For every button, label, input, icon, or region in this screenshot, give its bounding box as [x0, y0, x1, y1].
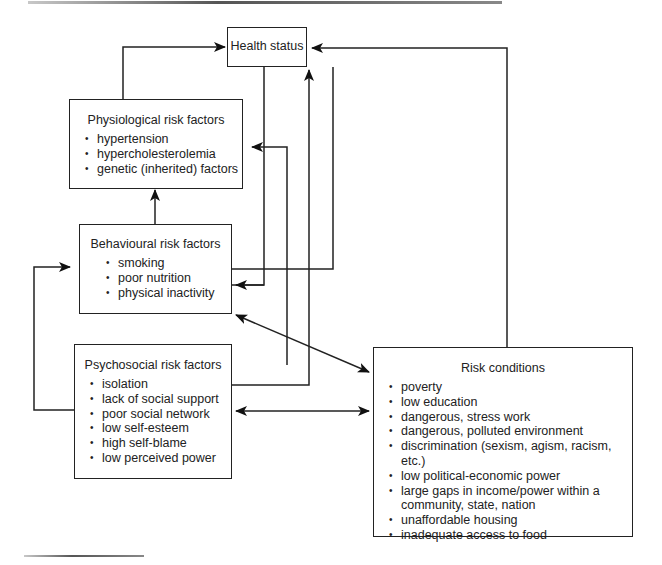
list-item: physical inactivity	[106, 286, 231, 301]
list-item: low education	[389, 395, 632, 410]
node-title: Physiological risk factors	[70, 113, 242, 127]
node-psychosocial-risk-factors: Psychosocial risk factors isolation lack…	[74, 344, 232, 479]
list-item: large gaps in income/power within a comm…	[389, 484, 601, 514]
node-title: Psychosocial risk factors	[75, 358, 231, 372]
list-item: poor nutrition	[106, 271, 231, 286]
edge-behavioural-to-health	[232, 67, 333, 269]
node-health-status: Health status	[227, 27, 307, 67]
list-item: high self-blame	[90, 436, 231, 451]
list-item: poverty	[389, 380, 632, 395]
list-item: genetic (inherited) factors	[85, 162, 242, 177]
list-item: dangerous, polluted environment	[389, 424, 632, 439]
list-item: poor social network	[90, 407, 231, 422]
node-behavioural-risk-factors: Behavioural risk factors smoking poor nu…	[79, 224, 232, 314]
list-item: low self-esteem	[90, 421, 231, 436]
edge-psychosocial-to-health	[232, 70, 309, 385]
list-item: inadequate access to food	[389, 528, 632, 543]
list-item: hypercholesterolemia	[85, 147, 242, 162]
edge-behavioural-riskconditions	[236, 315, 369, 372]
list-item: hypertension	[85, 132, 242, 147]
list-item: discrimination (sexism, agism, racism, e…	[389, 439, 632, 469]
list-item: low perceived power	[90, 451, 231, 466]
node-title: Behavioural risk factors	[80, 237, 231, 251]
list-item: isolation	[90, 377, 231, 392]
list-item: smoking	[106, 256, 231, 271]
list-item: low political-economic power	[389, 469, 632, 484]
edge-physiological-to-health	[123, 47, 225, 100]
edge-psychosocial-to-physiological	[252, 147, 287, 365]
edge-psychosocial-to-behavioural	[34, 267, 74, 410]
list-item: unaffordable housing	[389, 513, 632, 528]
node-physiological-risk-factors: Physiological risk factors hypertension …	[69, 99, 243, 189]
node-risk-conditions: Risk conditions poverty low education da…	[373, 347, 633, 537]
node-title: Health status	[228, 39, 306, 53]
node-title: Risk conditions	[374, 361, 632, 375]
list-item: dangerous, stress work	[389, 410, 632, 425]
edge-riskconditions-to-health	[312, 48, 507, 347]
list-item: lack of social support	[90, 392, 231, 407]
